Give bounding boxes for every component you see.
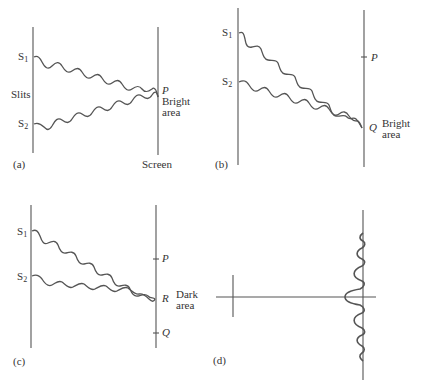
- panel-a-caption: (a): [13, 159, 25, 170]
- panel-a-screen-label: Screen: [142, 159, 172, 170]
- panel-c-wave-s2: [32, 275, 155, 301]
- panel-c-s2-label: S2: [17, 271, 27, 282]
- panel-b-s1-label: S1: [222, 27, 232, 38]
- panel-c-point-p-label: P: [162, 253, 169, 264]
- panel-c-wave-s1: [32, 230, 155, 299]
- panel-a-s2-label: S2: [18, 118, 28, 129]
- panel-a-wave-s2: [34, 92, 158, 129]
- panel-b-s2-label: S2: [222, 76, 232, 87]
- panel-a-s1-label: S1: [18, 51, 28, 62]
- panel-c-area-label: area: [176, 300, 194, 311]
- panel-b-wave-s1: [239, 32, 362, 128]
- panel-b-caption: (b): [215, 159, 228, 170]
- panel-c-point-r-label: R: [162, 293, 169, 304]
- panel-c-point-q-label: Q: [162, 327, 170, 338]
- panel-c-caption: (c): [13, 356, 25, 367]
- panel-b-point-q-label: Q: [369, 122, 377, 133]
- panel-a-wave-s1: [34, 56, 158, 97]
- panel-b-point-p-label: P: [371, 52, 378, 63]
- panel-b-area-label: area: [382, 129, 400, 140]
- panel-c-s1-label: S1: [17, 226, 27, 237]
- panel-a-slits-label: Slits: [11, 89, 31, 100]
- double-slit-figure: [0, 0, 423, 385]
- panel-a-area-label: area: [162, 107, 180, 118]
- panel-d-caption: (d): [213, 355, 226, 366]
